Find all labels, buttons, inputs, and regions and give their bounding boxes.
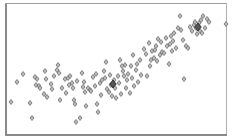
data-point-diamond-icon <box>125 78 129 83</box>
data-point-diamond-icon <box>117 81 121 86</box>
data-point-diamond-icon <box>30 116 34 121</box>
data-point-diamond-icon <box>144 52 148 57</box>
data-point-diamond-icon <box>104 60 108 65</box>
data-point-diamond-icon <box>15 80 19 85</box>
data-point-diamond-icon <box>122 74 126 79</box>
data-point-diamond-icon <box>203 26 207 31</box>
data-point-diamond-icon <box>108 73 112 78</box>
data-point-diamond-icon <box>155 59 159 64</box>
data-point-diamond-icon <box>42 92 46 97</box>
data-point-diamond-icon <box>96 110 100 115</box>
data-point-diamond-icon <box>147 41 151 46</box>
data-point-diamond-icon <box>83 90 87 95</box>
data-point-diamond-icon <box>60 86 64 91</box>
data-point-diamond-icon <box>95 102 99 107</box>
data-point-diamond-icon <box>102 69 106 74</box>
data-point-diamond-icon <box>164 36 168 41</box>
data-point-diamond-icon <box>9 100 13 105</box>
data-point-diamond-icon <box>43 69 47 74</box>
data-point-diamond-icon <box>91 75 95 80</box>
data-point-diamond-icon <box>131 53 135 58</box>
data-point-diamond-icon <box>174 46 178 51</box>
data-point-diamond-icon <box>181 38 185 43</box>
data-point-diamond-icon <box>159 40 163 45</box>
data-point-diamond-icon <box>28 101 32 106</box>
data-point-diamond-icon <box>167 62 171 67</box>
data-point-diamond-icon <box>182 77 186 82</box>
data-point-diamond-icon <box>74 120 78 125</box>
data-point-diamond-icon <box>58 98 62 103</box>
data-point-diamond-icon <box>78 116 82 121</box>
data-point-diamond-icon <box>118 58 122 63</box>
data-point-diamond-icon <box>49 82 53 87</box>
data-point-diamond-icon <box>142 47 146 52</box>
data-point-diamond-icon <box>44 77 48 82</box>
data-point-diamond-icon <box>224 22 228 27</box>
data-point-diamond-icon <box>171 39 175 44</box>
data-point-diamond-icon <box>71 86 75 91</box>
data-point-diamond-icon <box>75 79 79 84</box>
data-point-diamond-icon <box>129 64 133 69</box>
data-point-diamond-icon <box>114 96 118 101</box>
data-point-diamond-icon <box>139 73 143 78</box>
data-point-diamond-icon <box>135 62 139 67</box>
data-point-diamond-icon <box>110 94 114 99</box>
data-point-diamond-icon <box>93 84 97 89</box>
data-point-diamond-icon <box>134 68 138 73</box>
data-point-diamond-icon <box>84 104 88 109</box>
data-point-diamond-icon <box>145 74 149 79</box>
data-point-diamond-icon <box>80 71 84 76</box>
data-point-diamond-icon <box>116 74 120 79</box>
data-point-diamond-icon <box>64 91 68 96</box>
data-point-diamond-icon <box>195 32 199 37</box>
scatter-plot-area <box>0 0 232 139</box>
data-point-diamond-icon <box>128 91 132 96</box>
data-point-diamond-icon <box>130 76 134 81</box>
data-point-diamond-icon <box>170 49 174 54</box>
data-point-diamond-icon <box>94 72 98 77</box>
data-point-diamond-icon <box>119 92 123 97</box>
data-point-diamond-icon <box>126 72 130 77</box>
data-point-diamond-icon <box>99 93 103 98</box>
data-point-diamond-icon <box>178 14 182 19</box>
data-point-diamond-icon <box>52 74 56 79</box>
scatter-chart <box>0 0 232 139</box>
data-point-diamond-icon <box>45 95 49 100</box>
data-point-diamond-icon <box>169 34 173 39</box>
data-point-diamond-icon <box>81 85 85 90</box>
data-point-diamond-icon <box>56 63 60 68</box>
data-point-diamond-icon <box>121 69 125 74</box>
data-point-diamond-icon <box>124 86 128 91</box>
data-point-diamond-icon <box>21 72 25 77</box>
data-point-diamond-icon <box>132 84 136 89</box>
data-point-diamond-icon <box>82 80 86 85</box>
data-point-diamond-icon <box>148 64 152 69</box>
data-point-diamond-icon <box>156 37 160 42</box>
data-point-diamond-icon <box>50 87 54 92</box>
data-point-diamond-icon <box>136 80 140 85</box>
data-point-diamond-icon <box>172 31 176 36</box>
data-point-diamond-icon <box>138 58 142 63</box>
